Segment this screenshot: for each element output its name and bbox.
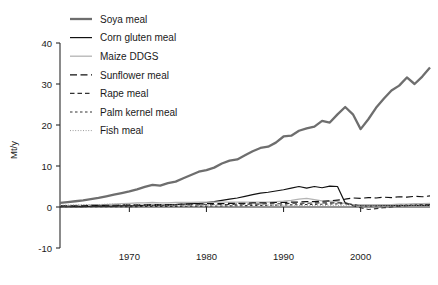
legend-label: Soya meal [100,14,147,25]
legend-label: Corn gluten meal [100,32,176,43]
y-axis: -10010203040 [38,38,60,254]
y-axis-tick-label: 30 [41,79,52,90]
y-axis-tick-label: -10 [38,243,52,254]
chart-legend: Soya mealCorn gluten mealMaize DDGSSunfl… [70,14,177,137]
x-axis-tick-label: 2000 [350,251,371,262]
y-axis-title: Mt/y [8,141,19,159]
chart-container: -10010203040 1970198019902000 Mt/y Soya … [0,0,438,285]
y-axis-tick-label: 40 [41,38,52,49]
x-axis-tick-label: 1980 [196,251,217,262]
y-axis-tick-label: 10 [41,161,52,172]
x-axis-tick-label: 1990 [273,251,294,262]
line-chart: -10010203040 1970198019902000 Mt/y Soya … [0,0,438,285]
x-axis-tick-label: 1970 [119,251,140,262]
y-axis-tick-label: 0 [47,202,52,213]
legend-label: Fish meal [100,125,143,136]
legend-label: Maize DDGS [100,51,159,62]
legend-label: Rape meal [100,88,148,99]
legend-label: Sunflower meal [100,70,169,81]
y-axis-tick-label: 20 [41,120,52,131]
x-axis: 1970198019902000 [60,207,430,262]
legend-label: Palm kernel meal [100,107,177,118]
